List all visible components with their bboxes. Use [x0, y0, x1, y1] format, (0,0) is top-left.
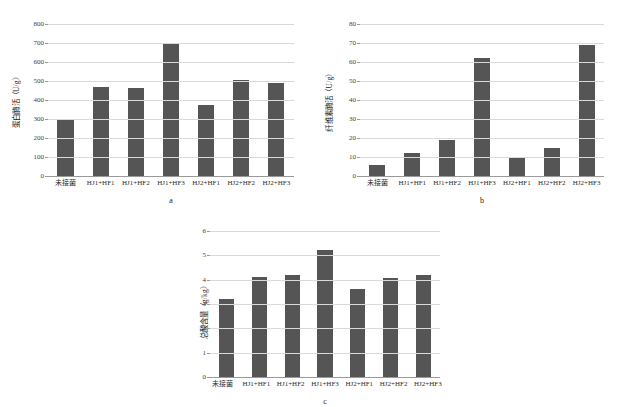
- bar[interactable]: [317, 250, 332, 377]
- y-axis-tick-label: 50: [349, 78, 360, 85]
- chart-c: 总酸含量（g/kg） 0123456 未接菌HJ1+HF1HJ1+HF2HJ1+…: [155, 215, 465, 407]
- x-axis-category-label: HJ1+HF1: [239, 381, 273, 389]
- bar[interactable]: [509, 157, 525, 176]
- x-axis-category-label: HJ1+HF1: [395, 180, 430, 188]
- y-axis-tick-label: 40: [349, 97, 360, 104]
- gridline: [48, 43, 294, 44]
- x-axis-category-label: HJ2+HF1: [189, 180, 224, 188]
- y-axis-tick-label: 10: [349, 154, 360, 161]
- bar[interactable]: [369, 165, 385, 176]
- x-axis-category-label: HJ2+HF3: [569, 180, 604, 188]
- panel-caption-c: c: [210, 397, 440, 406]
- plot-area-c: 0123456: [210, 231, 440, 377]
- gridline: [360, 62, 604, 63]
- y-axis-tick-label: 0: [353, 173, 361, 180]
- chart-a: 蛋白酶活（U/g） 0100200300400500600700800 未接菌H…: [0, 0, 310, 210]
- panel-c: 总酸含量（g/kg） 0123456 未接菌HJ1+HF1HJ1+HF2HJ1+…: [155, 215, 465, 407]
- x-axis-category-label: HJ2+HF3: [259, 180, 294, 188]
- bar[interactable]: [128, 88, 144, 176]
- y-axis-tick-label: 500: [34, 78, 49, 85]
- x-axis-category-label: HJ1+HF1: [83, 180, 118, 188]
- y-axis-tick-label: 4: [203, 276, 211, 283]
- y-axis-tick-label: 800: [34, 21, 49, 28]
- x-axis-category-label: HJ2+HF1: [342, 381, 376, 389]
- y-axis-tick-label: 70: [349, 40, 360, 47]
- plot-area-a: 0100200300400500600700800: [48, 24, 294, 176]
- bar[interactable]: [57, 119, 73, 176]
- y-axis-label-a: 蛋白酶活（U/g）: [10, 41, 21, 161]
- gridline: [48, 81, 294, 82]
- x-axis-categories-c: 未接菌HJ1+HF1HJ1+HF2HJ1+HF3HJ2+HF1HJ2+HF2HJ…: [205, 381, 445, 389]
- gridline: [360, 157, 604, 158]
- gridline: [210, 280, 440, 281]
- x-axis-category-label: 未接菌: [48, 180, 83, 188]
- gridline: [360, 119, 604, 120]
- gridline: [48, 62, 294, 63]
- gridline: [48, 138, 294, 139]
- y-axis-tick-label: 3: [203, 301, 211, 308]
- panel-b: 纤维素酶活（U/g） 01020304050607080 未接菌HJ1+HF1H…: [310, 0, 619, 210]
- x-axis-line: [360, 176, 604, 177]
- gridline: [210, 304, 440, 305]
- gridline: [360, 100, 604, 101]
- bar[interactable]: [268, 83, 284, 176]
- x-axis-category-label: HJ2+HF3: [411, 381, 445, 389]
- x-axis-category-label: HJ2+HF1: [499, 180, 534, 188]
- gridline: [210, 231, 440, 232]
- y-axis-tick-label: 400: [34, 97, 49, 104]
- x-axis-category-label: HJ1+HF2: [274, 381, 308, 389]
- x-axis-category-label: 未接菌: [205, 381, 239, 389]
- gridline: [360, 81, 604, 82]
- x-axis-line: [48, 176, 294, 177]
- bar[interactable]: [350, 289, 365, 377]
- panel-caption-b: b: [360, 196, 604, 205]
- x-axis-category-label: HJ2+HF2: [534, 180, 569, 188]
- gridline: [48, 119, 294, 120]
- x-axis-category-label: HJ1+HF3: [153, 180, 188, 188]
- chart-b: 纤维素酶活（U/g） 01020304050607080 未接菌HJ1+HF1H…: [310, 0, 619, 210]
- y-axis-tick-label: 600: [34, 59, 49, 66]
- gridline: [210, 255, 440, 256]
- gridline: [360, 24, 604, 25]
- gridline: [360, 138, 604, 139]
- bar[interactable]: [416, 275, 431, 377]
- y-axis-tick-label: 5: [203, 252, 211, 259]
- gridline: [210, 328, 440, 329]
- y-axis-tick-label: 60: [349, 59, 360, 66]
- y-axis-tick-label: 0: [41, 173, 49, 180]
- y-axis-tick-label: 300: [34, 116, 49, 123]
- y-axis-label-b: 纤维素酶活（U/g）: [323, 41, 334, 161]
- panel-caption-a: a: [48, 196, 294, 205]
- x-axis-category-label: HJ2+HF2: [376, 381, 410, 389]
- gridline: [48, 157, 294, 158]
- gridline: [48, 100, 294, 101]
- y-axis-tick-label: 2: [203, 325, 211, 332]
- x-axis-category-label: HJ1+HF2: [118, 180, 153, 188]
- x-axis-line: [210, 377, 440, 378]
- y-axis-tick-label: 1: [203, 349, 211, 356]
- x-axis-category-label: HJ2+HF2: [224, 180, 259, 188]
- y-axis-tick-label: 80: [349, 21, 360, 28]
- y-axis-tick-label: 100: [34, 154, 49, 161]
- bar[interactable]: [198, 105, 214, 176]
- bar[interactable]: [233, 80, 249, 176]
- gridline: [210, 353, 440, 354]
- bar[interactable]: [219, 299, 234, 377]
- bar[interactable]: [544, 148, 560, 177]
- y-axis-tick-label: 200: [34, 135, 49, 142]
- bar[interactable]: [285, 275, 300, 377]
- bar[interactable]: [474, 58, 490, 176]
- x-axis-category-label: HJ1+HF3: [308, 381, 342, 389]
- panel-a: 蛋白酶活（U/g） 0100200300400500600700800 未接菌H…: [0, 0, 310, 210]
- x-axis-category-label: HJ1+HF3: [465, 180, 500, 188]
- plot-area-b: 01020304050607080: [360, 24, 604, 176]
- y-axis-tick-label: 6: [203, 228, 211, 235]
- gridline: [360, 43, 604, 44]
- gridline: [48, 24, 294, 25]
- x-axis-category-label: 未接菌: [360, 180, 395, 188]
- bar[interactable]: [252, 277, 267, 377]
- x-axis-categories-b: 未接菌HJ1+HF1HJ1+HF2HJ1+HF3HJ2+HF1HJ2+HF2HJ…: [360, 180, 604, 188]
- y-axis-tick-label: 0: [203, 374, 211, 381]
- y-axis-tick-label: 20: [349, 135, 360, 142]
- y-axis-tick-label: 700: [34, 40, 49, 47]
